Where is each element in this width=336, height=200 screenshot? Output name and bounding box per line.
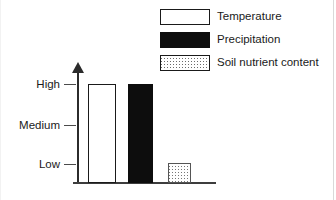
y-tick-mark-high	[64, 84, 76, 85]
bar-precipitation	[128, 84, 153, 183]
bar-temperature	[88, 84, 116, 183]
y-axis-line	[77, 70, 79, 184]
y-tick-label-low: Low	[39, 159, 60, 170]
y-tick-mark-medium	[64, 125, 76, 126]
bar-soil-nutrient-content	[168, 163, 191, 183]
plot-area: High Medium Low	[0, 0, 336, 200]
bar-chart-figure: Temperature Precipitation Soil nutrient …	[0, 0, 336, 200]
y-tick-label-high: High	[36, 79, 60, 90]
y-tick-label-medium: Medium	[19, 120, 60, 131]
y-tick-mark-low	[64, 164, 76, 165]
